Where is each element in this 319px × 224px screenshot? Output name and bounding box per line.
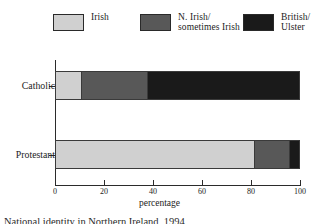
x-tick-80	[251, 180, 252, 185]
bar-segment-protestant-0	[56, 141, 254, 168]
x-tick-label-100: 100	[294, 187, 306, 196]
figure-caption: National identity in Northern Ireland, 1…	[0, 216, 319, 224]
category-label-catholic: Catholic	[22, 80, 55, 91]
x-tick-0	[55, 180, 56, 185]
bar-segment-catholic-0	[56, 72, 81, 99]
bar-catholic	[55, 71, 300, 100]
x-axis-line	[55, 185, 301, 186]
x-tick-label-0: 0	[53, 187, 57, 196]
x-tick-60	[202, 180, 203, 185]
figure-caption-clip: National identity in Northern Ireland, 1…	[0, 216, 319, 224]
x-tick-100	[300, 180, 301, 185]
plot-area: 020406080100 CatholicProtestant percenta…	[0, 0, 319, 224]
x-tick-label-80: 80	[247, 187, 255, 196]
figure: Irish N. Irish/ sometimes Irish British/…	[0, 0, 319, 224]
bar-segment-protestant-2	[289, 141, 300, 168]
category-label-protestant: Protestant	[16, 149, 55, 160]
bar-segment-catholic-2	[147, 72, 300, 99]
x-tick-label-20: 20	[100, 187, 108, 196]
x-tick-label-40: 40	[149, 187, 157, 196]
x-tick-label-60: 60	[198, 187, 206, 196]
bar-protestant	[55, 140, 300, 169]
bar-segment-protestant-1	[254, 141, 288, 168]
x-axis-label: percentage	[0, 198, 319, 208]
x-tick-20	[104, 180, 105, 185]
bar-segment-catholic-1	[81, 72, 147, 99]
x-tick-40	[153, 180, 154, 185]
